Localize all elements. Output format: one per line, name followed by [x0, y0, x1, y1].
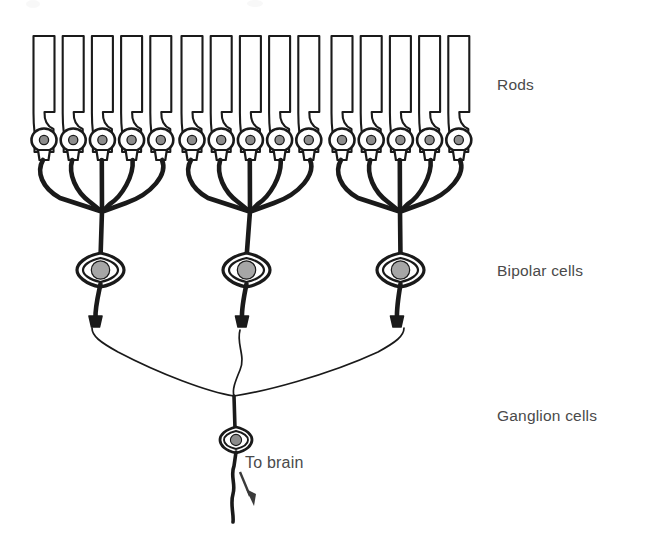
- label-ganglion-cells: Ganglion cells: [497, 407, 597, 424]
- rod-nucleus-11: [337, 135, 346, 144]
- to-brain-arrow-head: [246, 489, 256, 506]
- ganglion-axon-to-brain: [232, 452, 236, 522]
- bipolar-axon-terminal-3: [391, 316, 404, 327]
- rod-nucleus-1: [39, 135, 48, 144]
- rod-nucleus-8: [246, 135, 255, 144]
- bipolar-nucleus-2: [237, 261, 255, 279]
- retina-convergence-figure: Rods Bipolar cells Ganglion cells To bra…: [0, 0, 645, 540]
- rod-group-3: [330, 36, 472, 327]
- rod-group-1: [32, 36, 174, 327]
- bipolar-dendrite-trunk-2: [247, 211, 251, 258]
- bipolar-axon-3: [397, 284, 401, 318]
- rod-nucleus-3: [98, 135, 107, 144]
- label-rods: Rods: [497, 76, 534, 93]
- rod-nucleus-10: [304, 135, 313, 144]
- ganglion-dendrite-center: [233, 330, 242, 396]
- rod-nucleus-14: [425, 135, 434, 144]
- rod-nucleus-9: [275, 135, 284, 144]
- ganglion-nucleus: [230, 434, 241, 445]
- rod-nucleus-4: [127, 135, 136, 144]
- ganglion-cell-soma-group: [220, 396, 252, 453]
- rod-cell-8: [238, 36, 263, 211]
- rod-nucleus-5: [156, 135, 165, 144]
- scan-artifact-right: [247, 0, 263, 7]
- bipolar-dendrite-trunk-3: [400, 211, 401, 258]
- ganglion-dendrite-right: [234, 328, 404, 396]
- bipolar-nucleus-1: [91, 261, 109, 279]
- bipolar-nucleus-3: [391, 261, 409, 279]
- rod-nucleus-2: [69, 135, 78, 144]
- diagram-canvas: Rods Bipolar cells Ganglion cells To bra…: [0, 0, 645, 540]
- label-bipolar-cells: Bipolar cells: [497, 262, 583, 279]
- bipolar-dendrite-trunk-1: [101, 211, 103, 258]
- ganglion-proximal-axon: [234, 396, 235, 429]
- scan-artifact-left: [26, 0, 40, 8]
- to-brain-arrow: [240, 472, 256, 506]
- bipolar-axon-terminal-1: [89, 316, 102, 327]
- rod-nucleus-13: [396, 135, 405, 144]
- rod-nucleus-6: [187, 135, 196, 144]
- rod-cell-3: [90, 36, 115, 211]
- rod-group-2: [180, 36, 322, 327]
- rod-cell-13: [388, 36, 413, 211]
- rod-nucleus-12: [367, 135, 376, 144]
- rod-nucleus-7: [217, 135, 226, 144]
- bipolar-axon-terminal-2: [236, 316, 249, 327]
- label-to-brain: To brain: [245, 454, 304, 471]
- rod-nucleus-15: [454, 135, 463, 144]
- ganglion-dendrite-left: [92, 328, 234, 396]
- bipolar-axon-2: [242, 284, 247, 318]
- bipolar-axon-1: [95, 284, 100, 318]
